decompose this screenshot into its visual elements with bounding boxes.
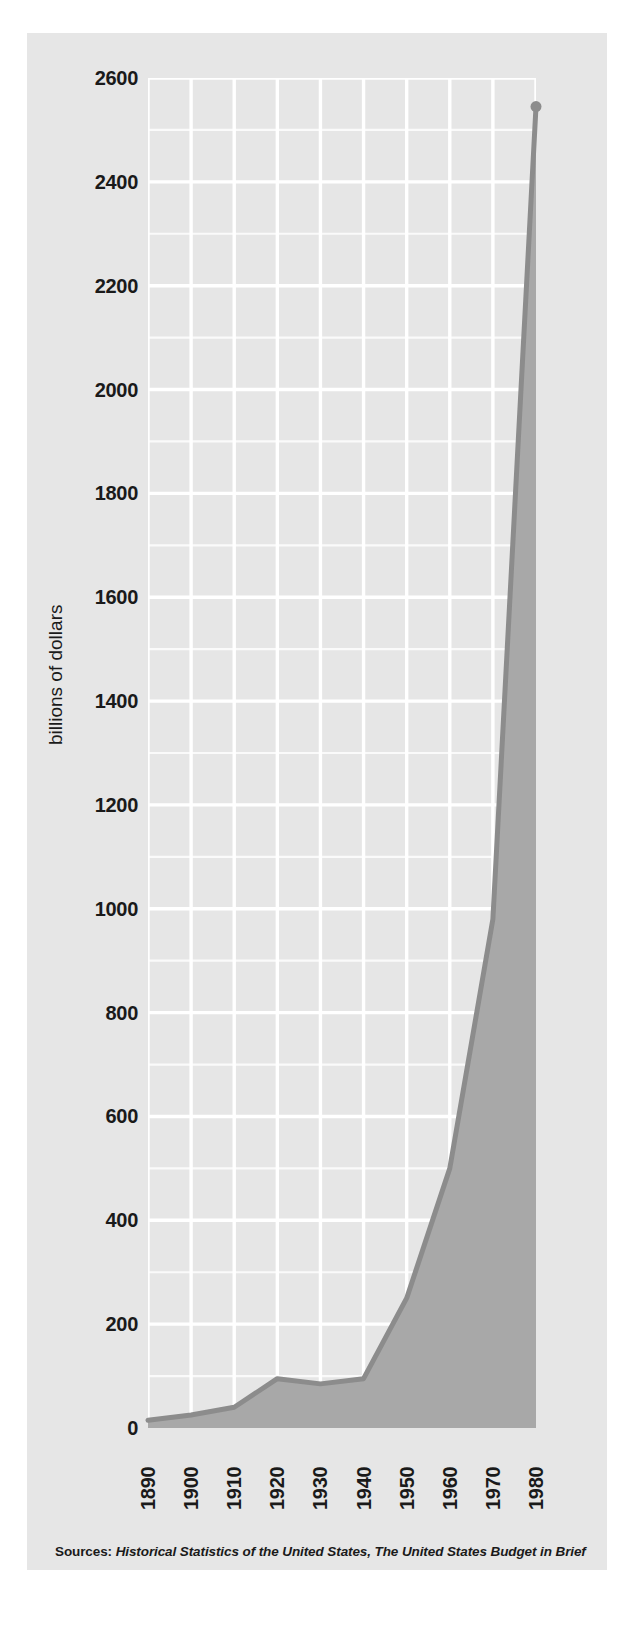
x-axis-tick-label: 1980: [526, 1467, 546, 1510]
y-axis-title: billions of dollars: [46, 605, 65, 745]
x-axis-tick-label: 1910: [224, 1467, 244, 1510]
x-axis-tick-labels: 1890190019101920193019401950196019701980: [0, 0, 636, 1628]
x-axis-tick-label: 1950: [397, 1467, 417, 1510]
source-note: Sources: Historical Statistics of the Un…: [55, 1544, 586, 1559]
x-axis-tick-label: 1940: [354, 1467, 374, 1510]
x-axis-tick-label: 1900: [181, 1467, 201, 1510]
x-axis-tick-label: 1890: [138, 1467, 158, 1510]
chart-figure: 0200400600800100012001400160018002000220…: [0, 0, 636, 1628]
source-label: Sources:: [55, 1544, 112, 1559]
x-axis-tick-label: 1930: [310, 1467, 330, 1510]
x-axis-tick-label: 1970: [483, 1467, 503, 1510]
x-axis-tick-label: 1920: [267, 1467, 287, 1510]
x-axis-tick-label: 1960: [440, 1467, 460, 1510]
source-titles: Historical Statistics of the United Stat…: [116, 1544, 586, 1559]
